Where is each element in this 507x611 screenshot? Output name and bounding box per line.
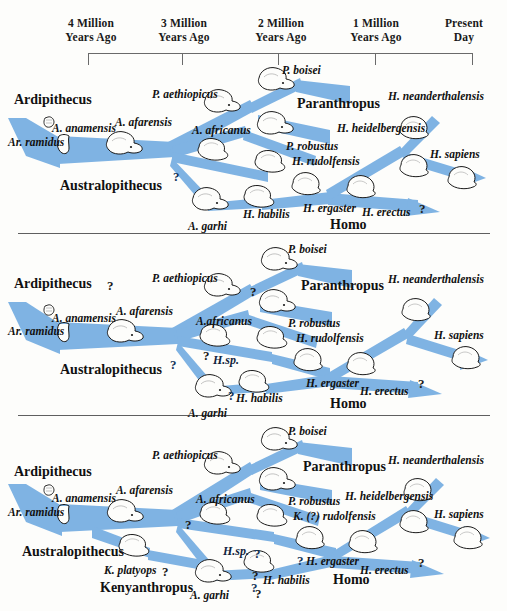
taxon-label: H. neanderthalensis	[388, 273, 484, 285]
taxon-label: Kenyanthropus	[100, 580, 193, 596]
taxon-label: A.africanus	[196, 315, 252, 327]
taxon-label: A. afarensis	[116, 305, 173, 317]
timeline-label: 4 Million Years Ago	[48, 17, 134, 44]
timeline-label-line2: Years Ago	[65, 31, 116, 43]
taxon-label: P. robustus	[288, 317, 340, 329]
uncertainty-marker: ?	[203, 348, 210, 364]
uncertainty-marker: ?	[297, 553, 304, 569]
taxon-label: P. robustus	[286, 140, 338, 152]
taxon-label: H. rudolfensis	[292, 155, 360, 167]
taxon-label: Ardipithecus	[14, 276, 92, 292]
skull-icon-h-sapiens	[452, 347, 480, 369]
taxon-label: H. ergaster	[306, 377, 359, 389]
uncertainty-marker: ?	[255, 586, 262, 602]
taxon-label: P. boisei	[288, 243, 327, 255]
skull-icon-h-rudolfensis	[255, 150, 285, 172]
taxon-label: Australopithecus	[22, 544, 124, 560]
taxon-label: A. anamensis	[52, 312, 116, 324]
taxon-label: H. sapiens	[430, 148, 480, 160]
timeline-label-line1: Present	[445, 17, 483, 29]
uncertainty-marker: ?	[250, 284, 257, 300]
figure-root: 4 Million Years Ago 3 Million Years Ago …	[0, 0, 507, 611]
taxon-label: P. aethiopicus	[152, 272, 218, 284]
timeline-header: 4 Million Years Ago 3 Million Years Ago …	[0, 0, 507, 48]
skull-icon-h-ergaster	[294, 349, 322, 371]
phylogeny-panel-3: ArdipithecusAr. ramidusA. anamensisA. af…	[0, 422, 507, 608]
skull-icon-a-africanus	[200, 324, 230, 346]
taxon-label: A. garhi	[190, 589, 229, 601]
taxon-label: A. afarensis	[115, 116, 172, 128]
timeline-label-line2: Day	[454, 31, 474, 43]
skull-icon-h-erectus	[347, 176, 375, 198]
skull-icon-a-garhi	[192, 188, 228, 210]
taxon-label: A. garhi	[188, 220, 227, 232]
timeline-label: 2 Million Years Ago	[238, 17, 324, 44]
taxon-label: H. habilis	[243, 208, 290, 220]
timeline-label-line2: Years Ago	[350, 31, 401, 43]
taxon-label: Homo	[333, 572, 370, 588]
taxon-label: Ar. ramidus	[8, 136, 64, 148]
taxon-label: Australopithecus	[60, 362, 162, 378]
timeline-label: 1 Million Years Ago	[333, 17, 419, 44]
skull-icon-p-robustus	[259, 290, 295, 312]
taxon-label: H. habilis	[236, 392, 283, 404]
taxon-label: H. ergaster	[306, 555, 359, 567]
panel-1-tree-graphic	[0, 60, 507, 232]
skull-icon-h-ergaster	[296, 527, 324, 549]
skull-icon-h-sapiens	[448, 167, 476, 189]
taxon-label: A. afarensis	[116, 484, 173, 496]
taxon-label: K. (?) rudolfensis	[293, 510, 376, 522]
taxon-label: P. robustus	[288, 495, 340, 507]
timeline-label-line1: 1 Million	[353, 17, 399, 29]
taxon-label: Ardipithecus	[14, 464, 92, 480]
panel-divider-2	[18, 415, 490, 416]
taxon-label: Paranthropus	[301, 278, 384, 294]
taxon-label: H. sapiens	[434, 508, 484, 520]
skull-icon-h-heidelbergensis-mid	[400, 511, 428, 533]
uncertainty-marker: ?	[170, 357, 177, 373]
timeline-label-line1: 3 Million	[161, 17, 207, 29]
taxon-label: Ardipithecus	[14, 92, 92, 108]
taxon-label: A. garhi	[188, 407, 227, 419]
taxon-label: H.sp.	[213, 353, 239, 368]
skull-icon-h-habilis	[239, 370, 269, 392]
skull-icon-h-neanderthalensis	[402, 299, 430, 321]
taxon-label: H. heidelbergensis	[337, 122, 425, 134]
taxon-label: A. anamensis	[52, 122, 116, 134]
taxon-label: Paranthropus	[303, 459, 386, 475]
taxon-label: A. africanus	[192, 124, 251, 136]
taxon-label: P. boisei	[282, 64, 321, 76]
taxon-label: H. heidelbergensis	[345, 490, 433, 502]
uncertainty-marker: ?	[419, 201, 426, 217]
timeline-label-line1: 2 Million	[258, 17, 304, 29]
taxon-label: Homo	[330, 396, 367, 412]
timeline-label: Present Day	[424, 17, 504, 44]
taxon-label: Homo	[330, 217, 367, 233]
taxon-label: H. habilis	[263, 574, 310, 586]
uncertainty-marker: ?	[107, 278, 114, 294]
phylogeny-panel-1: ArdipithecusAr. ramidusA. anamensisA. af…	[0, 60, 507, 232]
taxon-label: H. erectus	[360, 385, 409, 397]
taxon-label: Ar. ramidus	[8, 506, 64, 518]
uncertainty-marker: ?	[173, 169, 180, 185]
uncertainty-marker: ?	[185, 517, 192, 533]
uncertainty-marker: ?	[162, 564, 169, 580]
taxon-label: P. aethiopicus	[152, 449, 218, 461]
uncertainty-marker: ?	[254, 546, 261, 562]
uncertainty-marker: ?	[418, 376, 425, 392]
skull-icon-p-robustus	[259, 468, 295, 490]
panel-2-tree-graphic	[0, 240, 507, 412]
taxon-label: Ar. ramidus	[8, 325, 64, 337]
taxon-label: K. platyops	[104, 564, 156, 576]
taxon-label: P. boisei	[288, 425, 327, 437]
taxon-label: H. neanderthalensis	[388, 90, 484, 102]
taxon-label: A. africanus	[196, 493, 255, 505]
taxon-label: H. neanderthalensis	[388, 454, 484, 466]
taxon-label: Paranthropus	[297, 96, 380, 112]
uncertainty-marker: ?	[418, 555, 425, 571]
taxon-label: A. anamensis	[52, 492, 116, 504]
taxon-label: H. rudolfensis	[296, 332, 364, 344]
taxon-label: Australopithecus	[60, 178, 162, 194]
skull-icon-h-ergaster	[292, 173, 320, 195]
taxon-label: H.sp.	[223, 544, 249, 559]
